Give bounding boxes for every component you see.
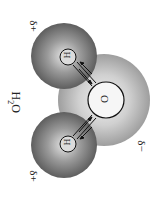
oxygen-label: O [99, 95, 111, 103]
charge-hydrogen-bottom: δ+ [28, 170, 40, 181]
charge-hydrogen-top: δ+ [28, 20, 40, 31]
formula-h: H [9, 92, 23, 101]
water-molecule-diagram [0, 0, 159, 204]
formula-o: O [9, 104, 23, 113]
charge-oxygen: δ− [136, 140, 148, 151]
hydrogen-top-label: H [62, 52, 72, 59]
formula-label: H2O [6, 92, 22, 113]
hydrogen-bottom-label: H [62, 139, 72, 146]
